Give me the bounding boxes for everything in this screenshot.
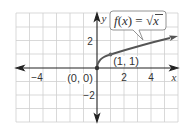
y-tick-label: 2 — [87, 36, 93, 47]
function-callout: f(x) = √x — [110, 11, 166, 40]
y-axis-label: y — [101, 12, 107, 24]
x-tick-label: −4 — [31, 72, 43, 83]
function-graph: −4 2 4 x 2 −2 y (0, 0) (1, 1) f(x) = √x — [0, 0, 188, 129]
x-tick-label: 4 — [148, 72, 154, 83]
point-1-1 — [109, 53, 113, 57]
function-label: f(x) = √x — [114, 13, 159, 28]
point-origin — [95, 66, 99, 70]
x-axis-label: x — [171, 71, 177, 83]
point-label-origin: (0, 0) — [67, 72, 93, 84]
x-tick-label: 2 — [121, 72, 127, 83]
point-label-1-1: (1, 1) — [113, 55, 139, 67]
y-tick-label: −2 — [83, 90, 95, 101]
